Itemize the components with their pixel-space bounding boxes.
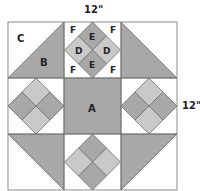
quilt-block-diagram: 12" 12" — [0, 0, 200, 191]
label-d-left: D — [75, 46, 82, 56]
label-c: C — [17, 33, 24, 44]
label-e-bottom: E — [89, 60, 95, 70]
label-f-top-right: F — [110, 25, 116, 35]
label-f-bottom-left: F — [70, 65, 76, 75]
quilt-block-svg: C B A F F F F E E D D — [0, 0, 200, 191]
label-f-top-left: F — [70, 25, 76, 35]
label-a: A — [88, 103, 96, 114]
label-e-top: E — [89, 32, 95, 42]
label-b: B — [40, 57, 48, 68]
label-f-bottom-right: F — [110, 65, 116, 75]
label-d-right: D — [103, 46, 110, 56]
